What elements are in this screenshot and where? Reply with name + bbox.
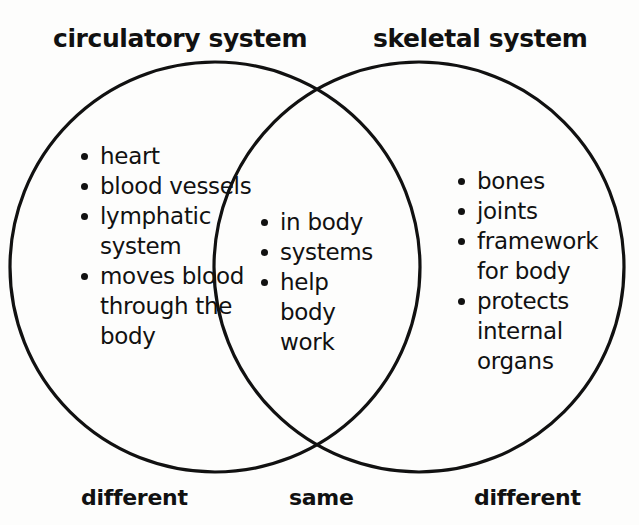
list-item: moves blood through the body [81, 261, 256, 351]
right-circle-list: bones joints framework for body protects… [458, 166, 618, 376]
list-item-label: joints [477, 196, 618, 226]
list-item-label: systems [280, 237, 386, 267]
list-item: heart [81, 141, 256, 171]
list-item-label: help body work [280, 267, 386, 357]
list-item-label: framework for body [477, 226, 618, 286]
list-item: joints [458, 196, 618, 226]
list-item: bones [458, 166, 618, 196]
list-item: lymphatic system [81, 201, 256, 261]
intersection-caption: same [289, 487, 354, 509]
list-item: protects internal organs [458, 286, 618, 376]
right-caption: different [474, 487, 581, 509]
list-item-label: bones [477, 166, 618, 196]
list-item: blood vessels [81, 171, 256, 201]
list-item: framework for body [458, 226, 618, 286]
left-caption: different [81, 487, 188, 509]
list-item-label: moves blood through the body [100, 261, 256, 351]
list-item-label: heart [100, 141, 256, 171]
list-item: systems [261, 237, 386, 267]
venn-diagram-page: circulatory system skeletal system heart… [0, 0, 639, 525]
intersection-list: in body systems help body work [261, 207, 386, 357]
left-circle-list: heart blood vessels lymphatic system mov… [81, 141, 256, 351]
list-item: help body work [261, 267, 386, 357]
list-item: in body [261, 207, 386, 237]
list-item-label: lymphatic system [100, 201, 256, 261]
list-item-label: blood vessels [100, 171, 256, 201]
left-circle-title: circulatory system [53, 26, 307, 51]
list-item-label: protects internal organs [477, 286, 618, 376]
list-item-label: in body [280, 207, 386, 237]
right-circle-title: skeletal system [373, 26, 587, 51]
